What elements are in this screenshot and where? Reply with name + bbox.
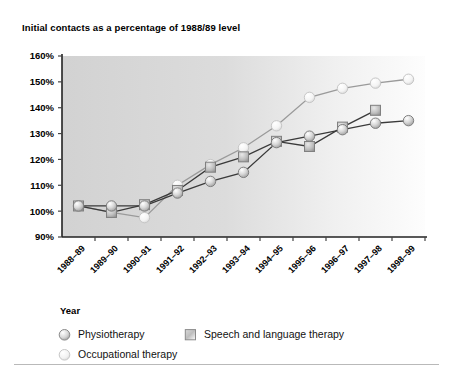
x-tick-label: 1993–94 [220,243,252,275]
legend-item-speech-and-language-therapy: Speech and language therapy [184,328,344,341]
legend-item-physiotherapy: Physiotherapy [58,328,184,341]
data-point-marker [271,121,281,131]
data-point-marker [271,137,281,147]
x-tick-label: 1992–93 [187,243,219,275]
x-tick-label: 1988–89 [55,243,87,275]
data-point-marker [371,105,381,115]
y-tick-label: 110% [30,180,54,191]
data-point-marker [304,92,314,102]
y-tick-label: 150% [30,76,55,87]
circle-marker-light-icon [58,348,71,361]
data-point-marker [206,162,216,172]
circle-marker-icon [58,328,71,341]
y-tick-label: 120% [30,154,55,165]
legend-label-speech-and-language-therapy: Speech and language therapy [204,328,344,340]
y-tick-label: 140% [30,102,55,113]
legend-item-occupational-therapy: Occupational therapy [58,348,184,361]
data-point-marker [139,212,149,222]
data-point-marker [403,115,413,125]
x-tick-label: 1996–97 [319,243,351,275]
plot-area: 160%150%140%130%120%110%100%90%1988–8919… [0,0,453,300]
x-tick-label: 1989–90 [88,243,120,275]
x-axis-title: Year [60,305,80,316]
chart-figure: Initial contacts as a percentage of 1988… [0,0,453,374]
data-point-marker [403,74,413,84]
x-tick-label: 1998–99 [385,243,417,275]
legend-label-physiotherapy: Physiotherapy [78,328,145,340]
data-point-marker [337,83,347,93]
y-tick-label: 130% [30,128,55,139]
legend-row-2: Occupational therapy [58,344,438,364]
y-tick-label: 160% [30,50,55,61]
data-point-marker [305,142,315,152]
data-point-marker [106,201,116,211]
x-tick-label: 1994–95 [253,243,285,275]
chart-legend: Physiotherapy Speech and language therap… [58,324,438,364]
data-point-marker [370,118,380,128]
data-point-marker [205,176,215,186]
data-point-marker [304,131,314,141]
x-tick-label: 1991–92 [154,243,186,275]
data-point-marker [139,201,149,211]
x-tick-label: 1997–98 [352,243,384,275]
legend-row-1: Physiotherapy Speech and language therap… [58,324,438,344]
y-tick-label: 100% [30,206,55,217]
x-tick-label: 1995–96 [286,243,318,275]
data-point-marker [337,124,347,134]
data-point-marker [239,152,249,162]
data-point-marker [370,78,380,88]
bottom-divider [14,364,439,365]
y-tick-label: 90% [35,231,55,242]
data-point-marker [73,201,83,211]
square-marker-icon [184,328,197,341]
legend-label-occupational-therapy: Occupational therapy [78,348,177,360]
data-point-marker [238,167,248,177]
x-tick-label: 1990–91 [121,243,153,275]
data-point-marker [172,188,182,198]
